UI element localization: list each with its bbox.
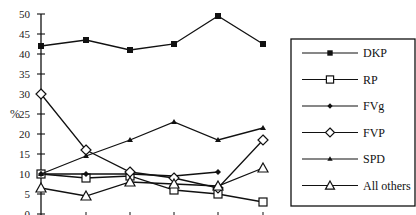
y-tick-label: 20 <box>19 128 31 140</box>
series-dkp <box>38 13 266 53</box>
legend-label: SPD <box>363 152 385 166</box>
legend-label: DKP <box>363 46 387 60</box>
legend-label: All others <box>363 179 411 193</box>
legend-label: FVP <box>363 126 385 140</box>
y-axis-title: % <box>10 107 20 121</box>
legend: DKPRPFVgFVPSPDAll others <box>291 39 415 206</box>
y-tick-label: 30 <box>19 88 31 100</box>
legend-label: FVg <box>363 99 384 113</box>
diamond-marker-icon <box>215 169 221 175</box>
y-tick-label: 25 <box>19 108 31 120</box>
open-triangle-marker-icon <box>36 183 46 192</box>
square-marker-icon <box>127 47 133 53</box>
series-spd <box>38 119 266 176</box>
series-group <box>36 13 268 206</box>
square-marker-icon <box>215 13 221 19</box>
line-chart: 05101520253035404550% DKPRPFVgFVPSPDAll … <box>0 0 416 215</box>
series-all-others <box>36 163 268 200</box>
square-marker-icon <box>171 41 177 47</box>
y-tick-label: 50 <box>19 8 31 20</box>
triangle-marker-icon <box>260 125 266 130</box>
y-tick-label: 0 <box>25 208 31 215</box>
y-tick-label: 35 <box>19 68 31 80</box>
y-tick-label: 5 <box>25 188 31 200</box>
square-marker-icon <box>260 41 266 47</box>
triangle-marker-icon <box>171 119 177 124</box>
y-tick-label: 15 <box>19 148 31 160</box>
open-triangle-marker-icon <box>258 163 268 172</box>
y-tick-label: 40 <box>19 48 31 60</box>
y-tick-label: 45 <box>19 28 31 40</box>
square-marker-icon <box>83 37 89 43</box>
square-marker-icon <box>38 43 44 49</box>
y-tick-label: 10 <box>19 168 31 180</box>
open-square-marker-icon <box>326 76 333 83</box>
legend-label: RP <box>363 73 378 87</box>
square-marker-icon <box>327 50 332 55</box>
open-square-marker-icon <box>259 198 267 206</box>
y-axis: 05101520253035404550% <box>10 8 263 215</box>
series-fvp <box>36 89 268 193</box>
